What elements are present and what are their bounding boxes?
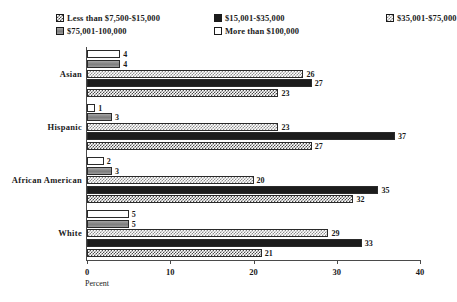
bar-row: 23: [87, 123, 420, 131]
bar-row: 21: [87, 249, 420, 257]
x-axis-tick: [337, 260, 338, 264]
bar[interactable]: [87, 79, 312, 87]
x-axis-tick-label: 10: [166, 267, 175, 277]
bar-group: Asian44262723: [87, 47, 420, 100]
bar-value-label: 5: [132, 210, 136, 219]
bar-group: Hispanic13233727: [87, 100, 420, 153]
bar-value-label: 27: [315, 79, 323, 88]
bar[interactable]: [87, 104, 95, 112]
bar-value-label: 33: [365, 238, 373, 247]
x-axis-tick-label: 0: [85, 267, 89, 277]
category-label: White: [58, 228, 82, 238]
bar-row: 27: [87, 142, 420, 150]
bar-row: 20: [87, 176, 420, 184]
bar[interactable]: [87, 186, 378, 194]
bar[interactable]: [87, 229, 328, 237]
bar-row: 2: [87, 157, 420, 165]
bar-row: 33: [87, 239, 420, 247]
bar-value-label: 23: [281, 88, 289, 97]
bar-value-label: 5: [132, 219, 136, 228]
bar-row: 32: [87, 195, 420, 203]
bar-value-label: 26: [306, 69, 314, 78]
bar-row: 35: [87, 186, 420, 194]
bar[interactable]: [87, 89, 278, 97]
bar[interactable]: [87, 157, 104, 165]
category-label: Hispanic: [47, 122, 82, 132]
bar-row: 3: [87, 167, 420, 175]
legend-item-15001-35000: $15,001-$35,000: [214, 13, 285, 23]
bar-value-label: 29: [331, 229, 339, 238]
category-label: Asian: [60, 69, 82, 79]
bar[interactable]: [87, 132, 395, 140]
bar[interactable]: [87, 167, 112, 175]
bar[interactable]: [87, 70, 303, 78]
bar-row: 5: [87, 210, 420, 218]
x-axis-tick: [420, 260, 421, 264]
bar-value-label: 27: [315, 142, 323, 151]
bar-row: 4: [87, 60, 420, 68]
legend-item-35001-75000: $35,001-$75,000: [386, 13, 457, 23]
legend-swatch-solid-gray-icon: [56, 27, 64, 35]
chart-legend: Less than $7,500-$15,000 $15,001-$35,000…: [56, 13, 436, 41]
x-axis-title: Percent: [85, 279, 109, 288]
legend-label: More than $100,000: [225, 26, 299, 36]
legend-label: Less than $7,500-$15,000: [67, 13, 160, 23]
bar-value-label: 37: [398, 132, 406, 141]
bar-value-label: 20: [257, 176, 265, 185]
bar-row: 27: [87, 79, 420, 87]
legend-label: $35,001-$75,000: [397, 13, 457, 23]
x-axis-tick: [170, 260, 171, 264]
bar[interactable]: [87, 50, 120, 58]
bar[interactable]: [87, 210, 129, 218]
legend-item-less-than-7500-15000: Less than $7,500-$15,000: [56, 13, 160, 23]
bar[interactable]: [87, 249, 262, 257]
legend-swatch-solid-black-icon: [214, 14, 222, 22]
x-axis-tick: [87, 260, 88, 264]
bar-row: 5: [87, 220, 420, 228]
legend-swatch-checker-icon: [386, 14, 394, 22]
legend-label: $75,001-100,000: [67, 26, 127, 36]
category-label: African American: [12, 175, 82, 185]
bar-row: 37: [87, 132, 420, 140]
bar-value-label: 1: [98, 103, 102, 112]
bar-row: 4: [87, 50, 420, 58]
bar-value-label: 4: [123, 50, 127, 59]
legend-item-more-than-100000: More than $100,000: [214, 26, 299, 36]
bar-value-label: 3: [115, 166, 119, 175]
bar-row: 3: [87, 113, 420, 121]
bar-row: 29: [87, 229, 420, 237]
legend-swatch-white-icon: [214, 27, 222, 35]
bar-value-label: 2: [107, 156, 111, 165]
legend-item-75001-100000: $75,001-100,000: [56, 26, 127, 36]
bar-value-label: 21: [265, 248, 273, 257]
bar-value-label: 3: [115, 113, 119, 122]
bar-value-label: 35: [381, 185, 389, 194]
bar-group: White55293321: [87, 207, 420, 260]
bar[interactable]: [87, 113, 112, 121]
bar[interactable]: [87, 176, 254, 184]
legend-swatch-crosshatch-icon: [56, 14, 64, 22]
bar-row: 1: [87, 104, 420, 112]
bar[interactable]: [87, 123, 278, 131]
bar[interactable]: [87, 239, 362, 247]
x-axis-tick-label: 40: [416, 267, 425, 277]
bar-row: 23: [87, 89, 420, 97]
bar-value-label: 32: [356, 195, 364, 204]
bar-group: African American23203532: [87, 154, 420, 207]
plot-area: 010203040 Asian44262723Hispanic13233727A…: [87, 47, 420, 260]
legend-label: $15,001-$35,000: [225, 13, 285, 23]
bar[interactable]: [87, 220, 129, 228]
bar-row: 26: [87, 70, 420, 78]
x-axis-tick-label: 20: [249, 267, 258, 277]
bar-value-label: 23: [281, 122, 289, 131]
x-axis-tick: [254, 260, 255, 264]
bar[interactable]: [87, 195, 353, 203]
bar[interactable]: [87, 142, 312, 150]
bar[interactable]: [87, 60, 120, 68]
bar-value-label: 4: [123, 60, 127, 69]
x-axis-tick-label: 30: [333, 267, 342, 277]
